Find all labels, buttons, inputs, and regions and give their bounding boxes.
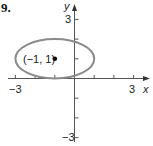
point-label: (−1, 1)	[23, 53, 55, 65]
x-tick-label-neg3: −3	[9, 83, 22, 95]
x-axis-label: x	[142, 83, 149, 95]
y-axis-arrow-icon	[72, 4, 77, 11]
x-tick-label-3: 3	[129, 83, 135, 95]
y-tick-label-neg3: −3	[62, 131, 75, 143]
x-axis-arrow-icon	[143, 76, 150, 81]
y-tick-label-3: 3	[65, 13, 71, 25]
coordinate-plot: (−1, 1) −3 3 x 3 −3 y	[0, 0, 153, 146]
y-axis-label: y	[63, 0, 71, 12]
